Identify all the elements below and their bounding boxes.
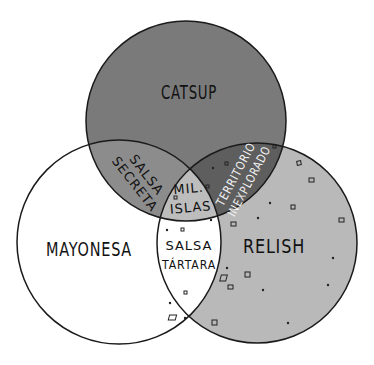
label-mayonesa: MAYONESA bbox=[46, 238, 132, 260]
venn-diagram: CATSUP MAYONESA RELISH SALSA SECRETA TER… bbox=[0, 0, 374, 365]
label-salsa-tartara-line1: SALSA bbox=[165, 238, 212, 253]
label-catsup: CATSUP bbox=[161, 81, 217, 103]
label-relish: RELISH bbox=[243, 234, 305, 258]
label-salsa-tartara-line2: TÁRTARA bbox=[161, 257, 216, 272]
label-mil-islas-line1: MIL. bbox=[173, 180, 205, 198]
